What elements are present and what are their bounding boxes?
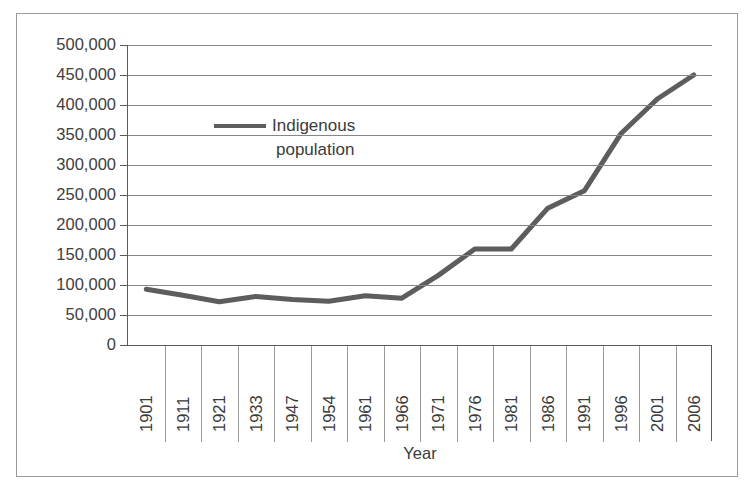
x-axis-tick-label: 1911 xyxy=(165,346,202,436)
y-axis-tick-label: 150,000 xyxy=(20,246,116,263)
y-tick-mark xyxy=(120,195,128,196)
category-axis-band: 1901191119211933194719541961196619711976… xyxy=(128,345,712,441)
y-axis-tick-label: 500,000 xyxy=(20,36,116,53)
y-tick-mark xyxy=(120,345,128,346)
gridline xyxy=(128,195,712,196)
y-axis-tick-label: 50,000 xyxy=(20,306,116,323)
y-axis-tick-label: 100,000 xyxy=(20,276,116,293)
x-axis-tick-label: 1976 xyxy=(457,346,494,436)
y-tick-mark xyxy=(120,45,128,46)
legend-label-line2: population xyxy=(272,138,402,162)
x-axis-tick-label: 1901 xyxy=(128,346,165,436)
gridline xyxy=(128,225,712,226)
y-axis-tick-label: 0 xyxy=(20,336,116,353)
gridline xyxy=(128,255,712,256)
x-axis-tick-label: 2006 xyxy=(676,346,713,436)
y-tick-mark xyxy=(120,135,128,136)
gridline xyxy=(128,105,712,106)
gridline xyxy=(128,135,712,136)
legend-swatch-indigenous-population xyxy=(214,124,266,128)
value-axis-labels: 050,000100,000150,000200,000250,000300,0… xyxy=(16,0,116,486)
gridline xyxy=(128,45,712,46)
gridline xyxy=(128,285,712,286)
x-axis-tick-label: 1954 xyxy=(311,346,348,436)
gridline xyxy=(128,165,712,166)
chart-page: 050,000100,000150,000200,000250,000300,0… xyxy=(0,0,753,486)
x-axis-tick-label: 1991 xyxy=(566,346,603,436)
y-axis-tick-label: 400,000 xyxy=(20,96,116,113)
x-axis-tick-label: 1947 xyxy=(274,346,311,436)
gridline xyxy=(128,315,712,316)
y-tick-mark xyxy=(120,75,128,76)
y-axis-tick-label: 450,000 xyxy=(20,66,116,83)
x-axis-tick-label: 1961 xyxy=(347,346,384,436)
cropped-title-text xyxy=(40,0,600,2)
legend-label-line1: Indigenous xyxy=(272,116,355,135)
x-axis-tick-label: 1986 xyxy=(530,346,567,436)
y-tick-mark xyxy=(120,285,128,286)
y-tick-mark xyxy=(120,315,128,316)
gridline xyxy=(128,75,712,76)
y-tick-mark xyxy=(120,255,128,256)
x-axis-title: Year xyxy=(128,444,712,463)
x-axis-tick-label: 2001 xyxy=(639,346,676,436)
y-tick-mark xyxy=(120,165,128,166)
x-axis-tick-label: 1996 xyxy=(603,346,640,436)
plot-area xyxy=(128,45,712,345)
y-axis-tick-label: 250,000 xyxy=(20,186,116,203)
x-axis-tick-label: 1971 xyxy=(420,346,457,436)
x-axis-tick-label: 1981 xyxy=(493,346,530,436)
y-axis-tick-label: 350,000 xyxy=(20,126,116,143)
x-axis-tick-label: 1921 xyxy=(201,346,238,436)
y-tick-mark xyxy=(120,225,128,226)
y-tick-mark xyxy=(120,105,128,106)
x-axis-tick-label: 1933 xyxy=(238,346,275,436)
y-axis-tick-label: 200,000 xyxy=(20,216,116,233)
y-axis-tick-label: 300,000 xyxy=(20,156,116,173)
legend-label: Indigenous population xyxy=(272,114,402,162)
x-axis-tick-label: 1966 xyxy=(384,346,421,436)
